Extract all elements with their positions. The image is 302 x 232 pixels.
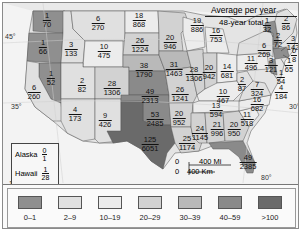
legend-label: 0–1 <box>24 213 37 222</box>
state-total: 133 <box>65 50 78 58</box>
state-total: 1174 <box>179 144 195 152</box>
state-label-nv: 152 <box>47 70 55 87</box>
state-total: 1241 <box>172 95 189 103</box>
state-label-or: 166 <box>39 39 47 56</box>
legend-swatch <box>18 196 42 209</box>
state-total: 270 <box>92 24 105 32</box>
latitude-30-label: 30° <box>289 103 299 110</box>
state-total: 753 <box>210 36 223 44</box>
scale-400-km: 400 Km <box>187 167 213 176</box>
state-label-wa: 170 <box>43 12 51 29</box>
state-label-ct: 165 <box>285 57 293 74</box>
legend-label: >100 <box>262 213 279 222</box>
state-label-sc: 11518 <box>241 111 254 128</box>
legend-label: 10–19 <box>100 213 121 222</box>
state-label-wv: 287 <box>238 76 246 93</box>
hawaii-fraction: 1 28 <box>42 166 50 181</box>
state-total: 682 <box>251 105 264 113</box>
state-total: 1463 <box>166 70 183 78</box>
state-label-wy: 10475 <box>98 43 111 60</box>
state-label-nj: 3121 <box>265 57 278 74</box>
us-map: Average per year 48-year total 45° 35° 3… <box>3 3 299 183</box>
legend-swatch <box>258 196 282 209</box>
state-label-ia: 311463 <box>166 61 183 78</box>
state-total: 65 <box>285 66 293 74</box>
alaska-row: Alaska 0 1 <box>15 147 47 162</box>
alaska-total: 1 <box>43 155 47 162</box>
state-total: 886 <box>191 26 204 34</box>
state-label-vt: 132 <box>263 17 271 34</box>
latitude-45-label: 45° <box>5 33 16 40</box>
state-label-ut: 282 <box>78 77 86 94</box>
state-total: 594 <box>210 111 223 119</box>
scale-zero-mi: 0 <box>175 157 179 166</box>
state-total: 475 <box>98 52 111 60</box>
state-total: 1224 <box>132 46 149 54</box>
legend-swatch <box>138 196 162 209</box>
state-total: 66 <box>39 48 47 56</box>
state-label-id: 3133 <box>65 41 78 58</box>
state-total: 2485 <box>147 120 164 128</box>
state-total: 496 <box>245 64 258 72</box>
legend-label: 40–59 <box>220 213 241 222</box>
state-label-ok: 532485 <box>147 111 164 128</box>
alaska-label: Alaska <box>15 150 38 159</box>
legend-swatch <box>178 196 202 209</box>
alaska-fraction: 0 1 <box>42 147 48 162</box>
legend-swatch <box>58 196 82 209</box>
state-label-pa: 11496 <box>245 55 258 72</box>
longitude-80-label: 80° <box>261 174 272 181</box>
legend-box: 0–12–910–1920–2930–3940–59>100 <box>7 188 296 228</box>
state-total: 1306 <box>104 89 121 97</box>
hawaii-total: 28 <box>42 174 50 181</box>
state-total: 82 <box>78 86 86 94</box>
state-label-me: 286 <box>282 15 290 32</box>
state-label-nd: 18868 <box>133 12 146 29</box>
legend-swatch <box>218 196 242 209</box>
state-total: 2385 <box>240 163 257 171</box>
state-label-nm: 9426 <box>99 112 112 129</box>
state-label-mi: 16753 <box>210 27 223 44</box>
state-label-ms: 241145 <box>192 125 208 142</box>
state-label-mn: 20946 <box>164 34 177 51</box>
hawaii-label: Hawaii <box>15 169 38 178</box>
state-label-az: 4173 <box>69 106 82 123</box>
state-total: 1790 <box>136 71 153 79</box>
state-label-mo: 261241 <box>172 86 189 103</box>
latitude-35-label: 35° <box>11 103 22 110</box>
state-total: 426 <box>99 121 112 129</box>
state-total: 868 <box>133 21 146 29</box>
legend-swatch <box>98 196 122 209</box>
alaska-hawaii-inset: Alaska 0 1 Hawaii 1 28 <box>11 143 59 185</box>
tornado-map-figure: Average per year 48-year total 45° 35° 3… <box>2 2 299 229</box>
hawaii-row: Hawaii 1 28 <box>15 166 49 181</box>
state-total: 681 <box>221 72 234 80</box>
alaska-avg: 0 <box>42 147 48 155</box>
state-label-ca: 6260 <box>28 84 41 101</box>
state-total: 6051 <box>142 145 159 153</box>
state-label-nh: 272 <box>274 32 282 49</box>
state-label-tn: 13594 <box>210 102 223 119</box>
state-label-co: 281306 <box>104 80 121 97</box>
state-label-fl: 492385 <box>240 154 257 171</box>
legend-label: 20–29 <box>140 213 161 222</box>
state-label-mt: 6270 <box>92 15 105 32</box>
state-total: 996 <box>211 130 224 138</box>
state-total: 173 <box>69 115 82 123</box>
state-total: 946 <box>164 43 177 51</box>
state-label-il: 281306 <box>186 66 203 83</box>
legend-label: 30–39 <box>180 213 201 222</box>
state-total: 1145 <box>192 134 208 142</box>
state-total: 1306 <box>186 75 203 83</box>
state-label-md: 4184 <box>275 84 288 101</box>
state-label-tx: 1256051 <box>142 136 159 153</box>
state-total: 324 <box>251 90 264 98</box>
state-label-wi: 19886 <box>191 17 204 34</box>
state-label-va: 7324 <box>251 81 264 98</box>
legend-label: 2–9 <box>64 213 77 222</box>
state-total: 70 <box>43 21 51 29</box>
scale-zero-km: 0 <box>175 167 179 176</box>
state-label-ga: 20950 <box>228 121 241 138</box>
state-total: 72 <box>274 41 282 49</box>
state-total: 32 <box>263 26 271 34</box>
